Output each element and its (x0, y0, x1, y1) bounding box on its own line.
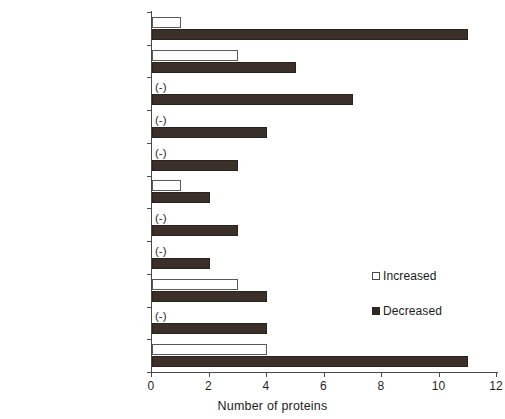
plot-area: proteincellphotosynthesis(-)RNA(-)signal… (152, 12, 497, 372)
x-axis-tick-label: 4 (246, 379, 286, 393)
bar-decreased (152, 356, 468, 367)
bar-decreased (152, 258, 210, 269)
y-axis-tick (147, 77, 152, 78)
bar-chart-figure: proteincellphotosynthesis(-)RNA(-)signal… (0, 0, 505, 419)
chart-row: lipid metabolism(-) (152, 241, 497, 274)
zero-value-marker: (-) (155, 310, 167, 322)
chart-row: not assigned (152, 339, 497, 372)
y-axis-tick (147, 176, 152, 177)
x-axis-tick (496, 372, 497, 377)
y-axis-tick (147, 208, 152, 209)
x-axis-tick-label: 0 (131, 379, 171, 393)
zero-value-marker: (-) (155, 212, 167, 224)
bar-increased (152, 279, 238, 290)
y-axis-tick (147, 45, 152, 46)
hollow-square-icon (372, 272, 380, 280)
y-axis-tick (147, 110, 152, 111)
legend-entry: Increased (372, 268, 442, 284)
legend-entry: Decreased (372, 303, 442, 319)
y-axis-tick (147, 339, 152, 340)
bar-decreased (152, 160, 238, 171)
bar-increased (152, 17, 181, 28)
y-axis-tick (147, 307, 152, 308)
y-axis-tick (147, 241, 152, 242)
filled-square-icon (372, 307, 380, 315)
x-axis-line (151, 372, 498, 373)
y-axis-tick (147, 143, 152, 144)
bar-decreased (152, 62, 296, 73)
x-axis-tick-label: 6 (304, 379, 344, 393)
x-axis-tick (381, 372, 382, 377)
chart-row: photosynthesis(-) (152, 77, 497, 110)
x-axis-tick (324, 372, 325, 377)
zero-value-marker: (-) (155, 81, 167, 93)
bar-increased (152, 180, 181, 191)
bar-decreased (152, 291, 267, 302)
bar-decreased (152, 225, 238, 236)
zero-value-marker: (-) (155, 245, 167, 257)
chart-legend: IncreasedDecreased (372, 268, 442, 338)
y-axis-tick (147, 274, 152, 275)
chart-row: cell (152, 45, 497, 78)
bar-increased (152, 50, 238, 61)
x-axis-tick-label: 8 (361, 379, 401, 393)
x-axis-tick-label: 12 (476, 379, 505, 393)
x-axis-tick (209, 372, 210, 377)
chart-row: amino acid metabolism(-) (152, 208, 497, 241)
chart-row: redox (152, 176, 497, 209)
chart-row: miscellaneous(-) (152, 307, 497, 340)
bar-increased (152, 344, 267, 355)
bar-decreased (152, 94, 353, 105)
y-axis-tick (147, 12, 152, 13)
x-axis-tick-label: 2 (189, 379, 229, 393)
zero-value-marker: (-) (155, 147, 167, 159)
bar-decreased (152, 323, 267, 334)
x-axis-tick-label: 10 (419, 379, 459, 393)
x-axis-tick (439, 372, 440, 377)
x-axis-tick (151, 372, 152, 377)
legend-label: Increased (383, 269, 437, 283)
zero-value-marker: (-) (155, 114, 167, 126)
chart-row: RNA(-) (152, 110, 497, 143)
bar-decreased (152, 192, 210, 203)
chart-row: signalling(-) (152, 143, 497, 176)
chart-row: others (152, 274, 497, 307)
bar-decreased (152, 29, 468, 40)
bar-decreased (152, 127, 267, 138)
chart-row: protein (152, 12, 497, 45)
x-axis-title: Number of proteins (0, 399, 505, 413)
x-axis-tick (266, 372, 267, 377)
legend-label: Decreased (383, 304, 442, 318)
